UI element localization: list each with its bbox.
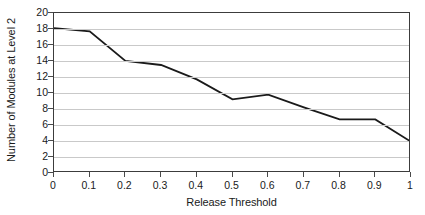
x-tick-mark — [267, 172, 268, 177]
gridline-y-12 — [54, 77, 409, 78]
x-tick-mark — [124, 172, 125, 177]
gridline-y-16 — [54, 45, 409, 46]
x-tick-mark — [339, 172, 340, 177]
gridline-y-6 — [54, 125, 409, 126]
gridline-y-18 — [54, 29, 409, 30]
y-tick-label: 0 — [22, 166, 48, 178]
x-tick-mark — [374, 172, 375, 177]
y-tick-mark — [48, 28, 53, 29]
y-tick-label: 16 — [22, 38, 48, 50]
x-tick-label: 0.2 — [104, 179, 144, 192]
y-tick-label: 18 — [22, 22, 48, 34]
y-tick-mark — [48, 108, 53, 109]
gridline-y-14 — [54, 61, 409, 62]
x-tick-mark — [196, 172, 197, 177]
x-tick-label: 0 — [33, 179, 73, 192]
x-tick-mark — [303, 172, 304, 177]
y-tick-label: 8 — [22, 102, 48, 114]
y-tick-label: 6 — [22, 118, 48, 130]
x-tick-label: 0.1 — [69, 179, 109, 192]
plot-area — [53, 12, 410, 172]
y-tick-mark — [48, 44, 53, 45]
y-tick-mark — [48, 140, 53, 141]
y-axis-tick-labels: 02468101214161820 — [22, 12, 48, 172]
line-chart: Number of Modules at Level 2 02468101214… — [0, 0, 425, 215]
y-tick-label: 14 — [22, 54, 48, 66]
x-tick-label: 0.3 — [140, 179, 180, 192]
y-tick-mark — [48, 76, 53, 77]
gridline-y-10 — [54, 93, 409, 94]
x-tick-label: 0.8 — [319, 179, 359, 192]
x-tick-label: 0.9 — [354, 179, 394, 192]
x-tick-label: 0.4 — [176, 179, 216, 192]
x-tick-label: 0.5 — [212, 179, 252, 192]
gridline-y-2 — [54, 157, 409, 158]
x-tick-mark — [89, 172, 90, 177]
x-tick-mark — [53, 172, 54, 177]
y-tick-label: 20 — [22, 6, 48, 18]
y-tick-mark — [48, 92, 53, 93]
y-tick-label: 10 — [22, 86, 48, 98]
x-tick-label: 1 — [390, 179, 425, 192]
y-tick-mark — [48, 124, 53, 125]
y-tick-label: 4 — [22, 134, 48, 146]
x-tick-mark — [160, 172, 161, 177]
x-tick-mark — [410, 172, 411, 177]
x-tick-label: 0.7 — [283, 179, 323, 192]
x-axis-title: Release Threshold — [53, 195, 410, 209]
y-axis-title: Number of Modules at Level 2 — [2, 4, 20, 176]
y-tick-label: 2 — [22, 150, 48, 162]
gridline-y-4 — [54, 141, 409, 142]
y-tick-mark — [48, 156, 53, 157]
x-tick-mark — [232, 172, 233, 177]
y-tick-mark — [48, 60, 53, 61]
x-tick-label: 0.6 — [247, 179, 287, 192]
gridline-y-8 — [54, 109, 409, 110]
y-tick-label: 12 — [22, 70, 48, 82]
y-tick-mark — [48, 12, 53, 13]
